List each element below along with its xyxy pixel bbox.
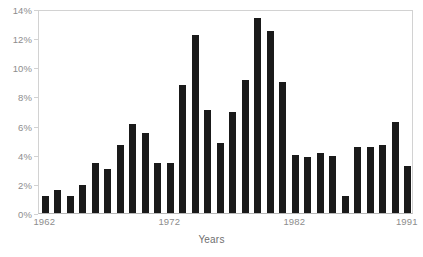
- bar: [142, 133, 149, 213]
- bar: [167, 163, 174, 213]
- x-axis-tick-label: 1991: [396, 216, 418, 227]
- bar: [404, 166, 411, 213]
- bar: [67, 196, 74, 213]
- x-axis-tick-label: 1972: [158, 216, 180, 227]
- bar: [279, 82, 286, 213]
- bar: [92, 163, 99, 213]
- bar: [217, 143, 224, 213]
- y-axis-tick-label: 6%: [18, 121, 32, 132]
- bar: [54, 190, 61, 213]
- bar-chart: 0%2%4%6%8%10%12%14% 1962197219821991 Yea…: [0, 0, 423, 257]
- y-axis-tick-mark: [34, 214, 38, 215]
- bar: [254, 18, 261, 213]
- x-axis-title: Years: [0, 234, 423, 245]
- y-axis-tick-label: 12%: [13, 34, 32, 45]
- bar: [179, 85, 186, 213]
- y-axis-tick-label: 4%: [18, 150, 32, 161]
- bar: [392, 122, 399, 213]
- y-axis-tick-label: 2%: [18, 179, 32, 190]
- bar: [79, 185, 86, 213]
- x-axis-tick-label: 1982: [283, 216, 305, 227]
- y-axis-tick-label: 10%: [13, 63, 32, 74]
- bar: [192, 35, 199, 214]
- bar: [242, 80, 249, 213]
- bar: [354, 147, 361, 213]
- bar: [204, 110, 211, 213]
- y-axis-tick-label: 14%: [13, 5, 32, 16]
- bar: [367, 147, 374, 213]
- bar-series: [39, 11, 412, 213]
- bar: [129, 124, 136, 213]
- bar: [117, 145, 124, 213]
- bar: [104, 169, 111, 213]
- x-axis-tick-label: 1962: [33, 216, 55, 227]
- plot-area: [38, 10, 413, 214]
- bar: [229, 112, 236, 213]
- y-axis-tick-label: 8%: [18, 92, 32, 103]
- bar: [329, 156, 336, 213]
- bar: [154, 163, 161, 213]
- bar: [304, 157, 311, 213]
- x-axis: 1962197219821991: [0, 216, 423, 234]
- bar: [342, 196, 349, 213]
- bar: [317, 153, 324, 213]
- bar: [42, 196, 49, 213]
- bar: [267, 31, 274, 213]
- bar: [379, 145, 386, 213]
- bar: [292, 155, 299, 213]
